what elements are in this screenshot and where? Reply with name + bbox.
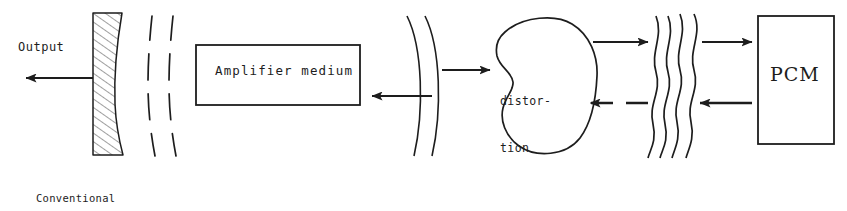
reflector-caption: Conventional reflector	[36, 166, 115, 211]
conventional-reflector	[93, 13, 123, 155]
pcm-label: PCM	[770, 63, 820, 87]
broken-wavefronts	[148, 16, 176, 156]
distortion-label-line-1: distor-	[500, 94, 551, 110]
distorted-wavefronts	[648, 14, 697, 158]
distortion-label: distor- tion	[500, 63, 551, 187]
distortion-label-line-2: tion	[500, 141, 551, 157]
diagram-svg	[0, 0, 847, 211]
reflector-caption-line-1: Conventional	[36, 192, 115, 205]
amplifier-medium-label: Amplifier medium	[215, 63, 353, 79]
smooth-wavefronts	[407, 16, 438, 156]
output-label: Output	[18, 40, 64, 55]
figure-canvas: Output Conventional reflector Amplifier …	[0, 0, 847, 211]
